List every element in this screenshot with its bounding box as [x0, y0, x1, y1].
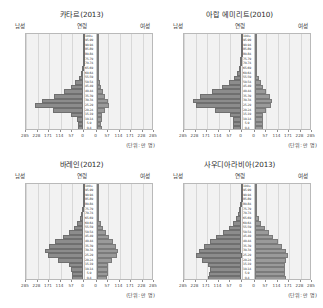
x-tick-label: 57: [226, 283, 231, 288]
age-group-label: 20-24: [243, 109, 251, 112]
age-group-label: 30-34: [85, 249, 93, 252]
x-tick: [206, 280, 207, 282]
x-tick-label: 171: [202, 283, 210, 288]
age-group-label: 15-19: [243, 263, 251, 266]
plot-area: 100+95-9990-9485-8980-8475-7970-7465-696…: [25, 33, 153, 130]
x-tick-label: 57: [68, 283, 73, 288]
age-group-label: 80-84: [85, 203, 93, 206]
age-group-label: 80-84: [243, 53, 251, 56]
x-tick-label: 114: [115, 283, 123, 288]
x-tick-label: 171: [202, 133, 210, 138]
x-tick: [277, 130, 278, 132]
x-tick: [195, 130, 196, 132]
panel-qatar: 카타르(2013) 남성 연령 여성 100+95-9990-9485-8980…: [3, 8, 160, 156]
x-tick-label: 57: [104, 133, 109, 138]
female-label: 여성: [140, 172, 150, 180]
x-tick: [142, 130, 143, 132]
age-group-label: 95-99: [85, 39, 93, 42]
age-group-label: 70-74: [243, 212, 251, 215]
x-tick: [300, 130, 301, 132]
axis-header: 남성 연령 여성: [3, 22, 160, 31]
x-tick: [48, 130, 49, 132]
x-tick-label: 228: [33, 283, 41, 288]
x-tick: [25, 130, 26, 132]
x-tick: [119, 130, 120, 132]
x-tick: [195, 280, 196, 282]
x-tick-label: 0: [81, 283, 84, 288]
x-tick: [25, 280, 26, 282]
x-tick-label: 0: [81, 133, 84, 138]
plot-area: 100+95-9990-9485-8980-8475-7970-7465-696…: [25, 183, 153, 280]
age-group-label: 95-99: [243, 39, 251, 42]
age-group-label: 55-59: [243, 226, 251, 229]
age-group-label: 60-64: [243, 222, 251, 225]
x-tick-label: 114: [214, 283, 222, 288]
x-tick-label: 57: [226, 133, 231, 138]
x-tick-label: 285: [149, 133, 157, 138]
age-group-label: 15-19: [85, 113, 93, 116]
x-tick-label: 57: [104, 283, 109, 288]
x-tick-label: 114: [115, 133, 123, 138]
x-tick-label: 285: [179, 283, 187, 288]
x-tick-label: 114: [214, 133, 222, 138]
x-tick: [288, 280, 289, 282]
x-tick-label: 0: [239, 133, 242, 138]
age-group-label: 40-44: [243, 240, 251, 243]
x-tick: [265, 130, 266, 132]
axis-header: 남성 연령 여성: [161, 22, 318, 31]
x-tick-label: 228: [191, 283, 199, 288]
age-group-label: 85-89: [85, 198, 93, 201]
age-group-label: 40-44: [85, 240, 93, 243]
x-tick: [206, 130, 207, 132]
bar-rows: 100+95-9990-9485-8980-8475-7970-7465-696…: [184, 34, 310, 129]
age-group-label: 20-24: [85, 109, 93, 112]
x-tick: [277, 280, 278, 282]
x-tick-label: 228: [296, 283, 304, 288]
x-tick-label: 57: [68, 133, 73, 138]
panel-saudi-arabia: 사우디아라비아(2013) 남성 연령 여성 100+95-9990-9485-…: [161, 158, 318, 306]
age-group-label: 55-59: [85, 226, 93, 229]
age-group-label: 55-59: [243, 76, 251, 79]
age-group-label: 45-49: [85, 85, 93, 88]
x-tick: [218, 280, 219, 282]
age-label: 연령: [77, 22, 87, 30]
age-group-label: 40-44: [85, 90, 93, 93]
x-tick-label: 114: [56, 283, 64, 288]
age-group-label: 95-99: [85, 189, 93, 192]
x-tick-label: 0: [94, 133, 97, 138]
age-group-label: 55-59: [85, 76, 93, 79]
panel-bahrain: 바레인(2012) 남성 연령 여성 100+95-9990-9485-8980…: [3, 158, 160, 306]
x-tick-label: 57: [262, 133, 267, 138]
age-group-label: 15-19: [85, 263, 93, 266]
x-tick-label: 0: [252, 133, 255, 138]
x-tick: [37, 130, 38, 132]
age-group-label: 30-34: [85, 99, 93, 102]
x-tick-label: 0: [239, 283, 242, 288]
x-tick: [241, 280, 242, 282]
female-label: 여성: [298, 172, 308, 180]
x-tick-label: 114: [273, 283, 281, 288]
age-group-label: 60-64: [85, 72, 93, 75]
x-axis: 285228171114570057114171228285: [25, 130, 153, 141]
age-label: 연령: [235, 172, 245, 180]
male-label: 남성: [15, 22, 25, 30]
x-tick: [71, 280, 72, 282]
x-tick: [71, 130, 72, 132]
x-tick: [311, 130, 312, 132]
x-tick: [83, 280, 84, 282]
x-tick: [254, 130, 255, 132]
panel-grid: 카타르(2013) 남성 연령 여성 100+95-9990-9485-8980…: [0, 8, 323, 308]
x-tick: [311, 280, 312, 282]
x-tick: [265, 280, 266, 282]
age-group-label: 70-74: [85, 212, 93, 215]
age-group-label: 15-19: [243, 113, 251, 116]
age-group-label: 85-89: [85, 48, 93, 51]
age-group-label: 85-89: [243, 48, 251, 51]
x-tick-label: 228: [138, 283, 146, 288]
age-group-label: 30-34: [243, 99, 251, 102]
x-axis: 285228171114570057114171228285: [183, 280, 311, 291]
x-tick-label: 171: [284, 133, 292, 138]
population-pyramid-figure: 카타르(2013) 남성 연령 여성 100+95-9990-9485-8980…: [0, 0, 323, 308]
age-group-label: 20-24: [243, 259, 251, 262]
panel-title: 사우디아라비아(2013): [161, 159, 318, 169]
